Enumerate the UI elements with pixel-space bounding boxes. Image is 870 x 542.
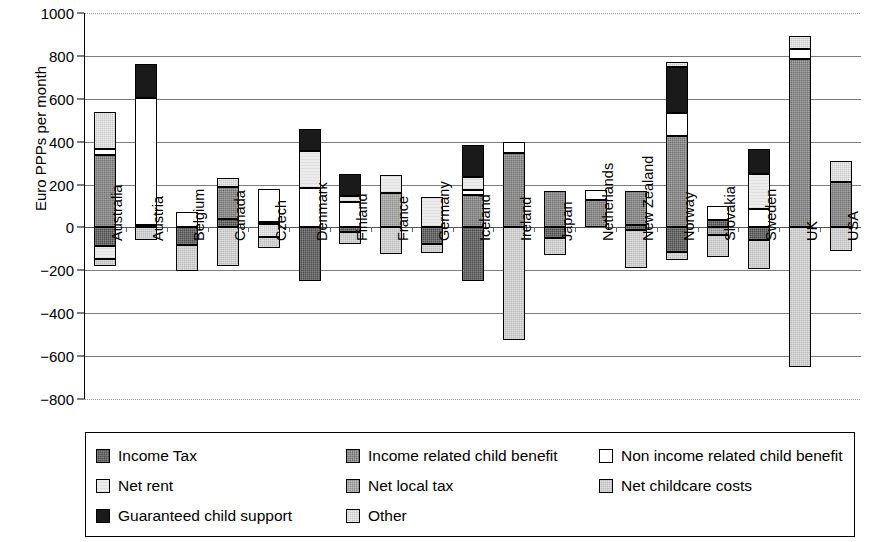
x-axis-category-label: New Zealand bbox=[641, 156, 656, 241]
bar-segment bbox=[666, 252, 688, 260]
legend-swatch-net-local-tax bbox=[346, 479, 360, 493]
x-axis-tick-mark bbox=[167, 227, 168, 232]
legend-label: Net local tax bbox=[368, 477, 453, 495]
x-axis-category-label: Denmark bbox=[315, 183, 330, 242]
legend-item-net-childcare-costs[interactable]: Net childcare costs bbox=[599, 477, 849, 495]
x-axis-tick-mark bbox=[453, 227, 454, 232]
x-axis-tick-mark bbox=[412, 227, 413, 232]
bar-segment bbox=[94, 112, 116, 150]
bar-segment bbox=[503, 142, 525, 154]
bar-segment bbox=[94, 259, 116, 267]
x-axis-category-label: Japan bbox=[560, 202, 575, 242]
legend-swatch-non-income-related-child-benefit bbox=[599, 449, 613, 463]
bar-segment bbox=[135, 64, 157, 97]
x-axis-tick-mark bbox=[208, 227, 209, 232]
bar-segment bbox=[748, 240, 770, 269]
x-axis-category-label: Czech bbox=[274, 200, 289, 241]
bar-segment bbox=[666, 113, 688, 137]
y-axis-tick-mark bbox=[77, 270, 84, 271]
bar-uk[interactable] bbox=[789, 13, 811, 399]
x-axis-tick-mark bbox=[820, 227, 821, 232]
x-axis-tick-mark bbox=[657, 227, 658, 232]
x-axis-category-label: Canada bbox=[233, 191, 248, 242]
x-axis-tick-mark bbox=[534, 227, 535, 232]
y-axis-tick-mark bbox=[77, 98, 84, 99]
bar-segment bbox=[176, 245, 198, 272]
stacked-bar-chart: Euro PPPs per month 10008006004002000−20… bbox=[0, 0, 870, 542]
y-axis-tick-label: 200 bbox=[49, 176, 74, 193]
chart-legend: Income TaxIncome related child benefitNo… bbox=[85, 432, 855, 537]
legend-item-income-tax[interactable]: Income Tax bbox=[96, 447, 346, 465]
x-axis-category-label: Slovakia bbox=[723, 187, 738, 242]
x-axis-tick-mark bbox=[248, 227, 249, 232]
legend-item-net-rent[interactable]: Net rent bbox=[96, 477, 346, 495]
y-axis-tick-label: −800 bbox=[40, 391, 74, 408]
legend-label: Net rent bbox=[118, 477, 173, 495]
y-axis-tick-mark bbox=[77, 227, 84, 228]
x-axis-category-label: Belgium bbox=[192, 189, 207, 241]
y-axis-tick-label: 1000 bbox=[41, 5, 74, 22]
bar-segment bbox=[503, 227, 525, 340]
bar-segment bbox=[789, 36, 811, 50]
x-axis-category-label: Iceland bbox=[478, 195, 493, 242]
legend-label: Non income related child benefit bbox=[621, 447, 842, 465]
x-axis-category-label: Sweden bbox=[764, 189, 779, 241]
y-axis-tick-mark bbox=[77, 141, 84, 142]
bar-segment bbox=[94, 149, 116, 154]
legend-row: Guaranteed child supportOther bbox=[96, 501, 854, 531]
x-axis-category-label: Germany bbox=[437, 182, 452, 242]
y-axis-tick-mark bbox=[77, 55, 84, 56]
bar-segment bbox=[830, 161, 852, 182]
bar-usa[interactable] bbox=[830, 13, 852, 399]
legend-swatch-income-tax bbox=[96, 449, 110, 463]
y-axis-tick-mark bbox=[77, 399, 84, 400]
legend-item-income-related-child-benefit[interactable]: Income related child benefit bbox=[346, 447, 599, 465]
x-axis-tick-mark bbox=[330, 227, 331, 232]
bar-segment bbox=[462, 177, 484, 190]
x-axis-category-label: UK bbox=[805, 221, 820, 241]
bar-segment bbox=[789, 227, 811, 366]
legend-swatch-net-childcare-costs bbox=[599, 479, 613, 493]
bar-segment bbox=[421, 244, 443, 254]
x-axis-category-label: Netherlands bbox=[601, 163, 616, 241]
bar-segment bbox=[94, 246, 116, 259]
legend-label: Guaranteed child support bbox=[118, 507, 292, 525]
plot-area: 10008006004002000−200−400−600−800 Austra… bbox=[0, 0, 870, 420]
y-axis-tick-labels: 10008006004002000−200−400−600−800 bbox=[0, 0, 84, 420]
legend-item-other[interactable]: Other bbox=[346, 507, 599, 525]
x-axis-category-label: Ireland bbox=[519, 197, 534, 241]
bar-segment bbox=[789, 59, 811, 227]
legend-label: Income Tax bbox=[118, 447, 197, 465]
legend-label: Net childcare costs bbox=[621, 477, 752, 495]
legend-row: Net rentNet local taxNet childcare costs bbox=[96, 471, 854, 501]
bar-segment bbox=[666, 67, 688, 113]
x-axis-category-label: Austria bbox=[151, 196, 166, 241]
legend-swatch-guaranteed-child-support bbox=[96, 509, 110, 523]
y-axis-tick-mark bbox=[77, 184, 84, 185]
y-axis-tick-label: −400 bbox=[40, 305, 74, 322]
y-axis-tick-label: −600 bbox=[40, 348, 74, 365]
x-axis-tick-mark bbox=[493, 227, 494, 232]
legend-swatch-net-rent bbox=[96, 479, 110, 493]
x-axis-category-label: USA bbox=[846, 212, 861, 242]
x-axis-tick-mark bbox=[575, 227, 576, 232]
legend-item-non-income-related-child-benefit[interactable]: Non income related child benefit bbox=[599, 447, 849, 465]
plot-frame-bottom bbox=[84, 399, 860, 400]
legend-swatch-income-related-child-benefit bbox=[346, 449, 360, 463]
x-axis-tick-mark bbox=[698, 227, 699, 232]
legend-item-guaranteed-child-support[interactable]: Guaranteed child support bbox=[96, 507, 346, 525]
x-axis-tick-mark bbox=[738, 227, 739, 232]
y-axis-tick-label: 600 bbox=[49, 90, 74, 107]
x-axis-tick-mark bbox=[779, 227, 780, 232]
y-axis-tick-mark bbox=[77, 13, 84, 14]
y-axis-tick-mark bbox=[77, 313, 84, 314]
bar-segment bbox=[789, 49, 811, 59]
legend-item-net-local-tax[interactable]: Net local tax bbox=[346, 477, 599, 495]
bar-segment bbox=[462, 145, 484, 177]
legend-label: Other bbox=[368, 507, 407, 525]
y-axis-tick-label: 0 bbox=[66, 219, 74, 236]
legend-label: Income related child benefit bbox=[368, 447, 558, 465]
x-axis-category-label: France bbox=[396, 196, 411, 241]
bar-segment bbox=[666, 62, 688, 66]
x-axis-tick-mark bbox=[616, 227, 617, 232]
